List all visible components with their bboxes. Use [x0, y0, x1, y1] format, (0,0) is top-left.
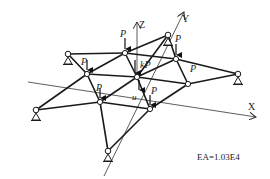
load-label-kp: kP	[140, 59, 151, 70]
node	[84, 71, 89, 76]
z-axis-label: Z	[139, 19, 145, 30]
node	[105, 148, 111, 154]
node	[97, 99, 102, 104]
node	[165, 32, 171, 38]
node	[147, 106, 152, 111]
displacement-label: u	[132, 92, 137, 102]
node	[185, 81, 190, 86]
load-label: P	[80, 56, 87, 67]
support-icon	[32, 113, 40, 120]
node	[235, 71, 241, 77]
load-label: P	[119, 28, 126, 39]
x-axis-label: X	[248, 101, 256, 112]
load-label: P	[189, 63, 196, 74]
node	[173, 56, 178, 61]
node	[122, 50, 127, 55]
load-label: P	[95, 82, 102, 93]
node	[134, 74, 139, 79]
support-icon	[104, 154, 112, 161]
node	[33, 107, 39, 113]
truss-diagram: X Y Z	[0, 0, 270, 179]
load-label: P	[150, 85, 157, 96]
load-label: P	[174, 33, 181, 44]
ea-annotation: EA=1.03E4	[197, 152, 240, 162]
support-icon	[234, 77, 242, 84]
y-axis-label: Y	[182, 13, 189, 24]
node	[65, 51, 71, 57]
